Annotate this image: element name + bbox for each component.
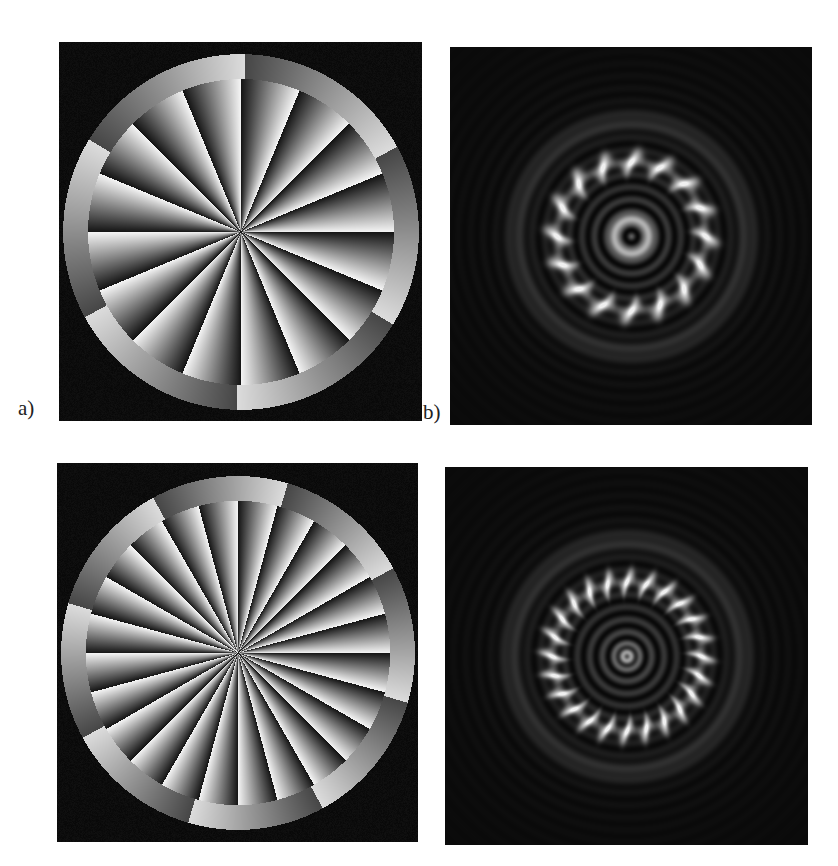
intensity-panel-b: [450, 47, 812, 425]
intensity-panel-d: [445, 467, 808, 845]
intensity-image-b: [450, 47, 812, 425]
panel-label-b: b): [423, 402, 441, 423]
panel-label-a: a): [18, 398, 34, 419]
phase-mask-panel-c: [57, 463, 418, 842]
phase-mask-panel-a: [59, 42, 422, 421]
phase-mask-image-a: [59, 42, 422, 421]
intensity-image-d: [445, 467, 808, 845]
phase-mask-image-c: [57, 463, 418, 842]
